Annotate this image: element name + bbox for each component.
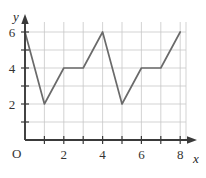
plot-area: y x O 2 4 6 2 4 6 8	[0, 0, 206, 178]
x-tick-label-4: 4	[99, 147, 106, 162]
x-tick-label-8: 8	[177, 147, 184, 162]
y-axis-title: y	[11, 9, 19, 24]
y-tick-label-4: 4	[9, 61, 16, 76]
y-axis	[21, 14, 28, 140]
line-chart-figure: y x O 2 4 6 2 4 6 8	[0, 0, 206, 178]
x-axis	[25, 136, 197, 143]
x-tick-label-2: 2	[61, 147, 68, 162]
y-tick-label-2: 2	[9, 97, 16, 112]
x-tick-label-6: 6	[138, 147, 145, 162]
origin-label: O	[12, 146, 21, 161]
y-tick-label-6: 6	[9, 25, 16, 40]
x-axis-title: x	[192, 151, 199, 166]
